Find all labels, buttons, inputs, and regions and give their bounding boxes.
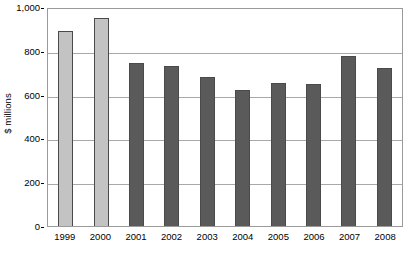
x-tick-label: 2000 (83, 230, 119, 250)
y-axis-title: $ millions (0, 0, 14, 227)
x-tick-label: 1999 (47, 230, 83, 250)
y-tick-mark (41, 96, 44, 97)
y-tick-mark (41, 8, 44, 9)
y-tick-mark (41, 139, 44, 140)
y-tick-label: 800 (24, 47, 40, 57)
y-tick-label: 0 (35, 222, 40, 232)
bar-2004[interactable] (235, 90, 250, 226)
bar-slot (190, 9, 225, 226)
x-tick-label: 2003 (189, 230, 225, 250)
bar-slot (225, 9, 260, 226)
bar-slot (48, 9, 83, 226)
bars-container (48, 9, 402, 226)
y-tick-mark (41, 227, 44, 228)
bar-chart: $ millions 02004006008001,000 1999200020… (0, 0, 408, 257)
bar-1999[interactable] (58, 31, 73, 226)
bar-slot (154, 9, 189, 226)
bar-2000[interactable] (94, 18, 109, 226)
bar-slot (119, 9, 154, 226)
y-axis-tick-labels: 02004006008001,000 (14, 0, 44, 234)
x-tick-label: 2004 (225, 230, 261, 250)
x-tick-label: 2005 (261, 230, 297, 250)
bar-slot (260, 9, 295, 226)
x-tick-label: 2001 (118, 230, 154, 250)
y-axis-title-text: $ millions (2, 93, 13, 134)
y-tick-mark (41, 183, 44, 184)
y-tick-label: 400 (24, 135, 40, 145)
y-tick-label: 600 (24, 91, 40, 101)
y-tick-label: 1,000 (16, 3, 40, 13)
bar-slot (331, 9, 366, 226)
bar-2001[interactable] (129, 63, 144, 226)
bar-2002[interactable] (164, 66, 179, 226)
bar-slot (296, 9, 331, 226)
y-tick-mark (41, 52, 44, 53)
bar-2008[interactable] (377, 68, 392, 226)
bar-slot (367, 9, 402, 226)
plot-area (47, 8, 403, 227)
x-tick-label: 2007 (332, 230, 368, 250)
x-tick-label: 2002 (154, 230, 190, 250)
bar-2005[interactable] (271, 83, 286, 226)
x-tick-label: 2006 (296, 230, 332, 250)
x-tick-label: 2008 (367, 230, 403, 250)
bar-2006[interactable] (306, 84, 321, 226)
y-tick-label: 200 (24, 178, 40, 188)
bar-slot (83, 9, 118, 226)
bar-2007[interactable] (341, 56, 356, 226)
x-axis-tick-labels: 1999200020012002200320042005200620072008 (47, 230, 403, 250)
bar-2003[interactable] (200, 77, 215, 226)
